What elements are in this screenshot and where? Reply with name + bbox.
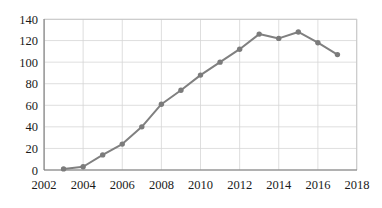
- data-point: [159, 102, 164, 107]
- x-axis-tick-labels: 200220042006200820102012201420162018: [32, 178, 370, 192]
- x-tick-label: 2012: [227, 178, 252, 192]
- x-tick-label: 2010: [188, 178, 213, 192]
- x-tick-label: 2004: [71, 178, 97, 192]
- y-tick-label: 80: [26, 77, 39, 91]
- y-tick-label: 100: [19, 56, 38, 70]
- line-chart: 020406080100120140 200220042006200820102…: [0, 0, 382, 208]
- data-point: [276, 36, 281, 41]
- data-point: [80, 164, 85, 169]
- data-point: [100, 152, 105, 157]
- data-point: [256, 31, 261, 36]
- data-point: [178, 87, 183, 92]
- data-point: [198, 72, 203, 77]
- chart-canvas: 020406080100120140 200220042006200820102…: [0, 0, 382, 208]
- chart-background: [0, 0, 382, 208]
- data-point: [315, 40, 320, 45]
- x-tick-label: 2016: [305, 178, 330, 192]
- y-tick-label: 40: [26, 120, 39, 134]
- data-point: [237, 47, 242, 52]
- x-tick-label: 2014: [266, 178, 292, 192]
- y-tick-label: 0: [32, 164, 38, 178]
- data-point: [217, 59, 222, 64]
- y-tick-label: 60: [26, 99, 39, 113]
- y-tick-label: 140: [19, 13, 38, 27]
- data-point: [296, 29, 301, 34]
- data-point: [139, 124, 144, 129]
- x-tick-label: 2018: [345, 178, 370, 192]
- x-tick-label: 2006: [110, 178, 135, 192]
- x-tick-label: 2008: [149, 178, 174, 192]
- y-tick-label: 20: [26, 142, 39, 156]
- x-tick-label: 2002: [32, 178, 57, 192]
- y-tick-label: 120: [19, 34, 38, 48]
- data-point: [120, 141, 125, 146]
- data-point: [335, 52, 340, 57]
- data-point: [61, 166, 66, 171]
